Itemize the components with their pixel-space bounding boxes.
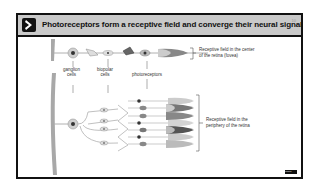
chevron-right-icon [22, 18, 36, 32]
fovea-field-label: Receptive field in the center of the ret… [199, 47, 255, 59]
ganglion-cells-label: ganglion cells [63, 67, 80, 77]
photoreceptors-label: photoreceptors [132, 72, 162, 77]
page-number: 10 [292, 18, 296, 23]
bipolar-cells-label: biopolar cells [97, 67, 113, 77]
neuron-illustration [18, 37, 301, 177]
periphery-field-label: Receptive field in the periphery of the … [206, 117, 250, 129]
footer-logo: mediva [285, 170, 297, 174]
retina-diagram: ganglion cells biopolar cells photorecep… [18, 37, 301, 177]
slide-header: Photoreceptors form a receptive field an… [18, 15, 301, 37]
slide-title: Photoreceptors form a receptive field an… [42, 20, 302, 29]
slide: Photoreceptors form a receptive field an… [16, 13, 303, 179]
